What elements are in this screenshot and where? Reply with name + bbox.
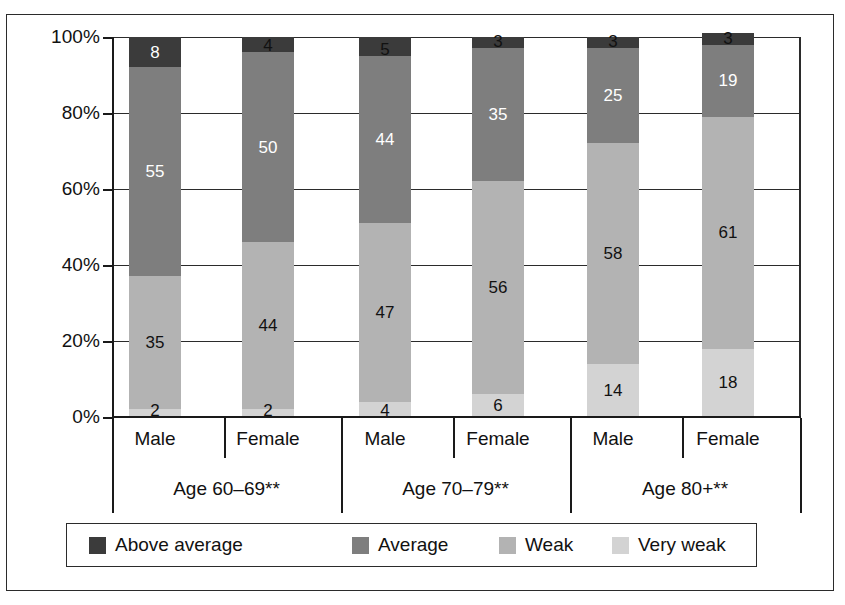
segment-value-label: 25 (604, 87, 623, 104)
legend-item-average[interactable]: Average (352, 534, 448, 556)
segment-value-label: 5 (359, 41, 411, 58)
legend-label: Above average (115, 534, 243, 556)
bar-6069-male[interactable]: 855352 (129, 37, 181, 417)
bar-segment-very-weak: 14 (587, 364, 639, 417)
bar-6069-female[interactable]: 450442 (242, 37, 294, 417)
y-tick-mark-40 (103, 265, 112, 267)
x-group-separator (570, 418, 572, 513)
bar-segment-weak: 61 (702, 117, 754, 349)
segment-value-label: 4 (359, 402, 411, 419)
legend-label: Weak (525, 534, 573, 556)
x-sex-separator (682, 418, 684, 458)
bar-segment-average: 55 (129, 67, 181, 276)
y-tick-mark-100 (103, 37, 112, 39)
segment-value-label: 3 (587, 33, 639, 50)
segment-value-label: 19 (719, 72, 738, 89)
y-tick-label-40: 40% (16, 254, 100, 276)
bar-segment-weak: 56 (472, 181, 524, 394)
segment-value-label: 6 (493, 397, 502, 414)
x-group-separator (341, 418, 343, 513)
segment-value-label: 3 (472, 33, 524, 50)
bar-segment-above-average: 5 (359, 37, 411, 56)
chart-legend: Above averageAverageWeakVery weak (66, 523, 757, 567)
segment-value-label: 47 (376, 304, 395, 321)
legend-item-very-weak[interactable]: Very weak (612, 534, 726, 556)
x-axis-sex-band: MaleFemaleMaleFemaleMaleFemale (112, 418, 800, 462)
bar-segment-weak: 44 (242, 242, 294, 409)
legend-swatch-icon (612, 537, 629, 554)
y-tick-label-60: 60% (16, 178, 100, 200)
bar-segment-above-average: 4 (242, 37, 294, 52)
segment-value-label: 14 (604, 382, 623, 399)
segment-value-label: 58 (604, 245, 623, 262)
y-tick-mark-80 (103, 113, 112, 115)
segment-value-label: 3 (702, 30, 754, 47)
plot-area: 85535245044254447433556632558143196118 (112, 37, 800, 417)
x-axis-group-band: Age 60–69**Age 70–79**Age 80+** (112, 462, 800, 514)
bar-segment-average: 25 (587, 48, 639, 143)
segment-value-label: 18 (719, 374, 738, 391)
bar-segment-above-average: 8 (129, 37, 181, 67)
legend-swatch-icon (352, 537, 369, 554)
x-sex-separator (453, 418, 455, 458)
x-label-female-3: Female (448, 428, 548, 450)
bar-segment-average: 44 (359, 56, 411, 223)
segment-value-label: 8 (150, 44, 159, 61)
legend-label: Very weak (638, 534, 726, 556)
x-group-label-1: Age 70–79** (341, 478, 570, 500)
bar-segment-weak: 47 (359, 223, 411, 402)
bar-segment-above-average: 3 (472, 37, 524, 48)
legend-label: Average (378, 534, 448, 556)
segment-value-label: 61 (719, 224, 738, 241)
y-tick-mark-0 (103, 417, 112, 419)
bar-segment-above-average: 3 (702, 33, 754, 44)
bar-segment-average: 19 (702, 45, 754, 117)
bar-segment-average: 50 (242, 52, 294, 242)
x-label-male-2: Male (335, 428, 435, 450)
segment-value-label: 55 (146, 163, 165, 180)
y-tick-label-0: 0% (16, 406, 100, 428)
segment-value-label: 4 (242, 37, 294, 54)
segment-value-label: 50 (259, 139, 278, 156)
bar-segment-weak: 58 (587, 143, 639, 363)
bar-80+-male[interactable]: 3255814 (587, 37, 639, 417)
bar-7079-female[interactable]: 335566 (472, 37, 524, 417)
x-group-label-2: Age 80+** (570, 478, 800, 500)
chart-page: 100% 80% 60% 40% 20% 0% 8553524504425444… (0, 0, 845, 605)
x-label-male-4: Male (563, 428, 663, 450)
x-label-female-5: Female (678, 428, 778, 450)
x-group-separator (112, 418, 114, 513)
legend-item-weak[interactable]: Weak (499, 534, 573, 556)
segment-value-label: 2 (129, 402, 181, 419)
x-group-label-0: Age 60–69** (112, 478, 341, 500)
y-tick-mark-60 (103, 189, 112, 191)
y-tick-label-100: 100% (16, 26, 100, 48)
bar-segment-very-weak: 6 (472, 394, 524, 417)
legend-swatch-icon (89, 537, 106, 554)
legend-swatch-icon (499, 537, 516, 554)
segment-value-label: 56 (489, 279, 508, 296)
y-tick-mark-20 (103, 341, 112, 343)
bar-segment-weak: 35 (129, 276, 181, 409)
x-group-separator (800, 418, 802, 513)
bar-segment-very-weak: 2 (129, 409, 181, 417)
bar-segment-very-weak: 2 (242, 409, 294, 417)
segment-value-label: 35 (146, 334, 165, 351)
legend-item-above-average[interactable]: Above average (89, 534, 243, 556)
bar-80+-female[interactable]: 3196118 (702, 33, 754, 417)
segment-value-label: 44 (376, 131, 395, 148)
bar-segment-very-weak: 18 (702, 349, 754, 417)
bar-7079-male[interactable]: 544474 (359, 37, 411, 417)
bar-segment-very-weak: 4 (359, 402, 411, 417)
segment-value-label: 44 (259, 317, 278, 334)
x-label-male-0: Male (105, 428, 205, 450)
segment-value-label: 2 (242, 402, 294, 419)
x-sex-separator (224, 418, 226, 458)
bar-segment-above-average: 3 (587, 37, 639, 48)
segment-value-label: 35 (489, 106, 508, 123)
bar-segment-average: 35 (472, 48, 524, 181)
y-tick-label-80: 80% (16, 102, 100, 124)
y-tick-label-20: 20% (16, 330, 100, 352)
x-label-female-1: Female (218, 428, 318, 450)
